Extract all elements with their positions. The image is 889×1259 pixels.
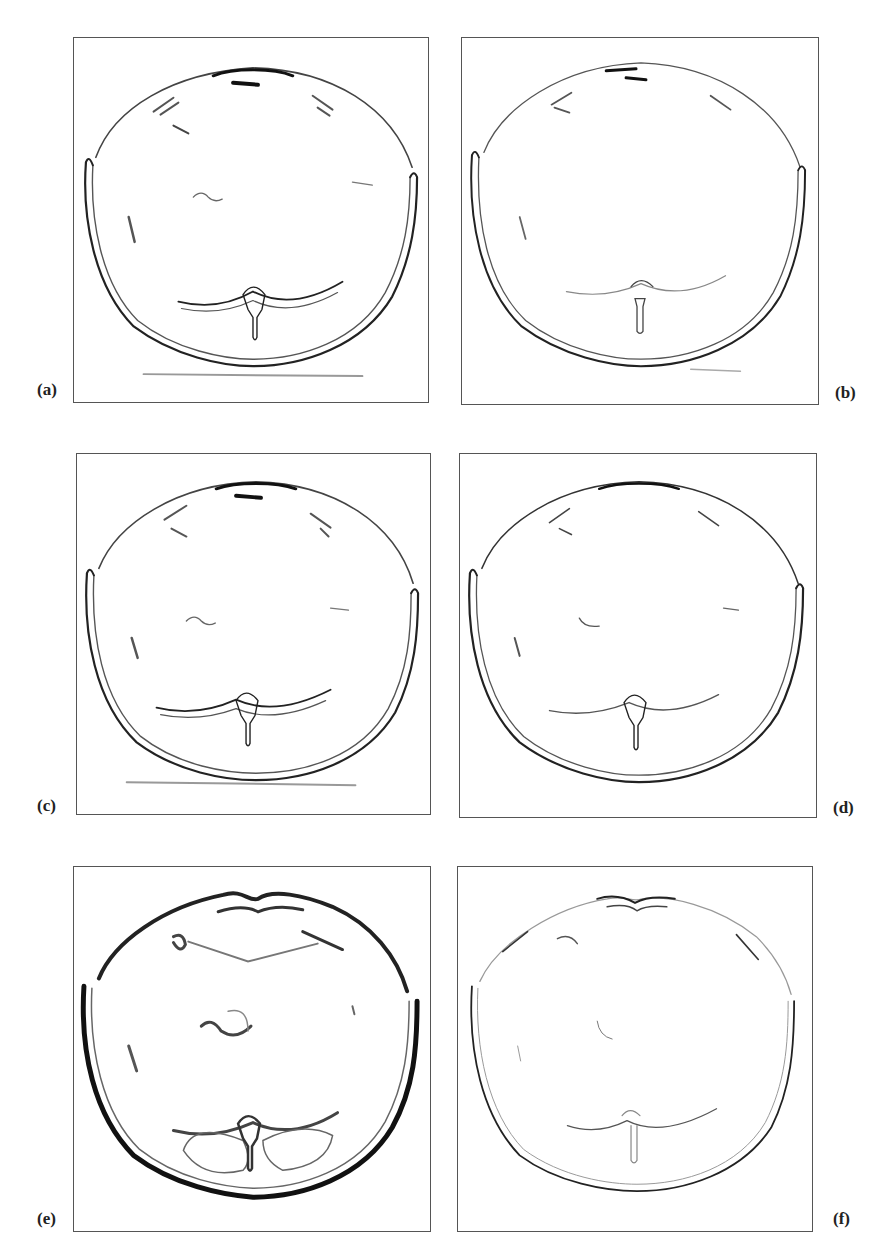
- panel-label-d: (d): [833, 798, 854, 818]
- panel-label-c: (c): [37, 796, 56, 816]
- ct-edge-image-f: [458, 867, 812, 1231]
- ct-edge-image-b: [462, 38, 818, 404]
- panel-d-image: [459, 453, 817, 818]
- panel-f-image: [457, 866, 813, 1232]
- panel-b-image: [461, 37, 819, 405]
- panel-e-image: [73, 866, 431, 1232]
- panel-label-e: (e): [37, 1209, 56, 1229]
- ct-edge-image-d: [460, 454, 816, 817]
- panel-label-a: (a): [37, 380, 57, 400]
- panel-c-image: [76, 453, 431, 815]
- panel-label-b: (b): [835, 383, 856, 403]
- ct-edge-image-e: [74, 867, 430, 1231]
- ct-edge-image-a: [74, 38, 428, 402]
- ct-edge-image-c: [77, 454, 430, 814]
- panel-label-f: (f): [833, 1209, 850, 1229]
- panel-a-image: [73, 37, 429, 403]
